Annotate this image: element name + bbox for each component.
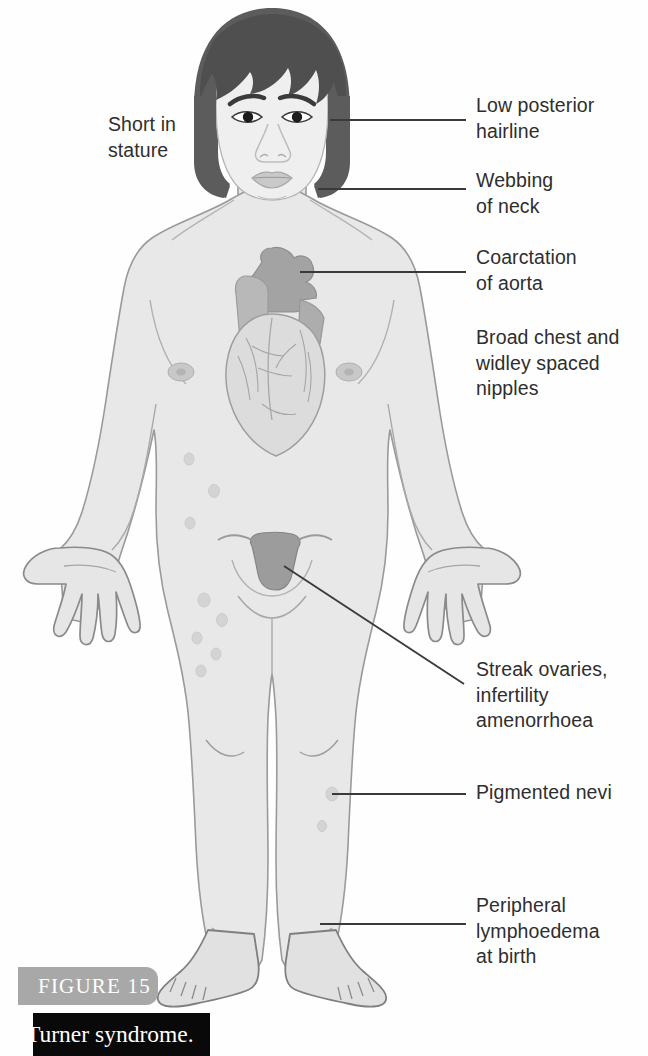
left-foot-shape [158, 930, 259, 1007]
label-peripheral-lymphoedema: Peripheral lymphoedema at birth [476, 893, 648, 970]
right-eye [282, 112, 312, 123]
nevus-spot [192, 632, 202, 644]
label-pigmented-nevi: Pigmented nevi [476, 780, 648, 806]
label-short-stature: Short in stature [108, 112, 238, 163]
nevus-spot [196, 665, 206, 677]
left-pupil [243, 112, 253, 122]
right-hand-shape [404, 547, 520, 644]
right-foot-shape [285, 930, 386, 1007]
left-nipple-center [176, 369, 186, 376]
nevus-spot [185, 517, 195, 529]
left-hand-shape [24, 547, 140, 644]
nevus-spot [318, 821, 327, 832]
right-pupil [292, 112, 302, 122]
label-broad-chest: Broad chest and widley spaced nipples [476, 325, 648, 402]
nevus-spot [209, 485, 220, 498]
nevus-spot [184, 453, 194, 465]
label-webbing-of-neck: Webbing of neck [476, 168, 646, 219]
figure-caption-bar: Turner syndrome. [33, 1013, 210, 1056]
nevus-spot [217, 614, 228, 627]
label-coarctation-of-aorta: Coarctation of aorta [476, 245, 646, 296]
figure-caption-text: Turner syndrome. [33, 1021, 194, 1048]
label-streak-ovaries: Streak ovaries, infertility amenorrhoea [476, 657, 648, 734]
nevus-spot [211, 648, 221, 660]
right-nipple-center [344, 369, 354, 376]
label-low-posterior-hairline: Low posterior hairline [476, 93, 646, 144]
heart-illustration [226, 247, 325, 456]
nevus-spot [198, 593, 210, 607]
figure-number-label: FIGURE 15 [18, 974, 151, 999]
figure-number-banner: FIGURE 15 [18, 967, 158, 1005]
body-group [24, 8, 521, 1007]
figure-page: Short in stature Low posterior hairline … [0, 0, 648, 1056]
